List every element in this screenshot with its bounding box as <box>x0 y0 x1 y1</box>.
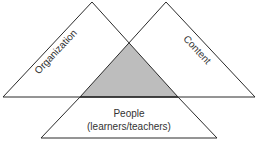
people-label: People <box>113 108 145 119</box>
people-sublabel: (learners/teachers) <box>87 121 171 132</box>
content-label: Content <box>181 33 213 66</box>
overlap-region <box>80 43 178 97</box>
triangle-overlap-diagram: Organization Content People (learners/te… <box>0 0 260 146</box>
organization-label: Organization <box>32 27 79 76</box>
